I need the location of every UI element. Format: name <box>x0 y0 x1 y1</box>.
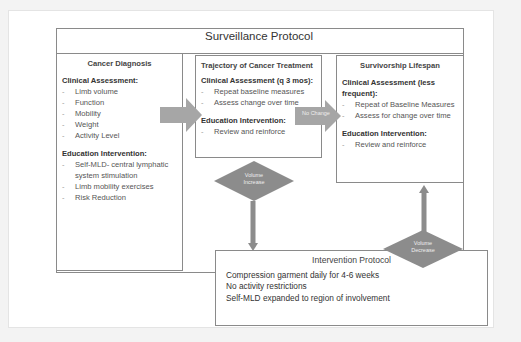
volume-increase-label: Volume Increase <box>238 172 270 186</box>
list-item: Repeat baseline measures <box>201 86 316 97</box>
down-arrow-icon <box>248 201 258 251</box>
education-intervention-list: Review and reinforce <box>342 139 458 150</box>
no-change-label: No Change <box>302 110 330 117</box>
box-title: Cancer Diagnosis <box>62 58 177 69</box>
list-item: Limb volume <box>62 86 177 97</box>
right-arrow-icon <box>160 98 202 132</box>
clinical-assessment-heading: Clinical Assessment: <box>62 75 177 86</box>
clinical-assessment-list: Repeat of Baseline Measures Assess for c… <box>342 99 458 121</box>
volume-decrease-label: Volume Decrease <box>406 240 440 254</box>
list-item: Limb mobility exercises <box>62 181 177 192</box>
education-intervention-heading: Education Intervention: <box>342 128 458 139</box>
box-title: Trajectory of Cancer Treatment <box>201 60 316 71</box>
intervention-line: Self-MLD expanded to region of involveme… <box>226 293 477 305</box>
survivorship-box: Survivorship Lifespan Clinical Assessmen… <box>336 55 464 183</box>
list-item: Self-MLD- central lymphatic system stimu… <box>62 159 177 181</box>
clinical-assessment-heading: Clinical Assessment (less frequent): <box>342 77 458 99</box>
intervention-line: No activity restrictions <box>226 281 477 293</box>
list-item: Risk Reduction <box>62 192 177 203</box>
education-intervention-list: Self-MLD- central lymphatic system stimu… <box>62 159 177 203</box>
surveillance-protocol-title: Surveillance Protocol <box>56 30 462 42</box>
education-intervention-heading: Education Intervention: <box>62 148 177 159</box>
list-item: Assess for change over time <box>342 110 458 121</box>
list-item: Repeat of Baseline Measures <box>342 99 458 110</box>
clinical-assessment-heading: Clinical Assessment (q 3 mos): <box>201 75 316 86</box>
list-item: Review and reinforce <box>342 139 458 150</box>
up-arrow-icon <box>419 185 429 235</box>
intervention-line: Compression garment daily for 4-6 weeks <box>226 270 477 282</box>
cancer-diagnosis-box: Cancer Diagnosis Clinical Assessment: Li… <box>56 53 183 271</box>
box-title: Survivorship Lifespan <box>342 60 458 71</box>
